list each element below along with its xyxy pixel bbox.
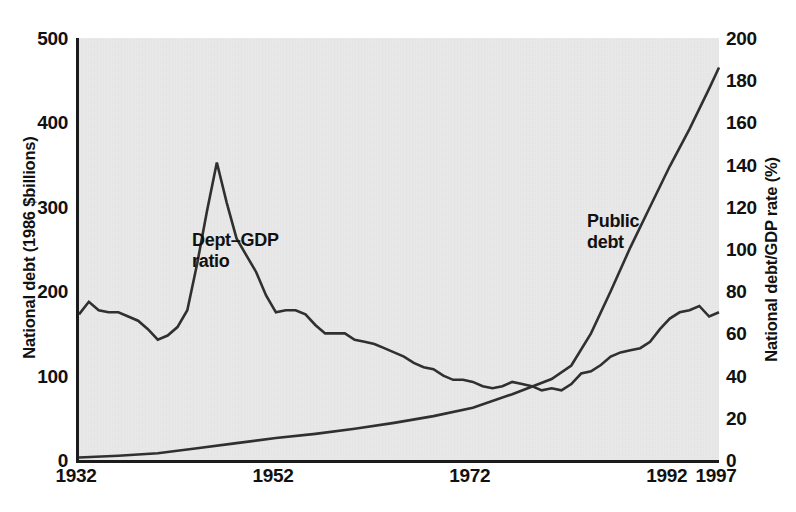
x-tick-1932: 1932	[55, 466, 96, 485]
x-tick-1952: 1952	[252, 466, 293, 485]
y-tick-right-120: 120	[726, 197, 757, 216]
series-line-dept-gdp-ratio	[79, 162, 719, 390]
y-tick-left-500: 500	[37, 29, 68, 48]
y-tick-right-180: 180	[726, 71, 757, 90]
y-tick-right-160: 160	[726, 113, 757, 132]
y-tick-left-200: 200	[37, 282, 68, 301]
y-tick-right-40: 40	[726, 366, 747, 385]
annotation-public-debt: Public debt	[587, 211, 639, 253]
chart-figure: National debt (1986 $billions) National …	[0, 0, 796, 512]
y-tick-right-200: 200	[726, 29, 757, 48]
y-tick-left-300: 300	[37, 197, 68, 216]
y-tick-right-80: 80	[726, 282, 747, 301]
plot-area: Dept–GDP ratio Public debt	[76, 38, 719, 463]
y-tick-right-140: 140	[726, 155, 757, 174]
series-line-public-debt	[79, 68, 719, 458]
x-tick-1972: 1972	[449, 466, 490, 485]
y-tick-left-400: 400	[37, 113, 68, 132]
annotation-dept-gdp-ratio: Dept–GDP ratio	[192, 230, 279, 272]
y-axis-left-ticks: 0100200300400500	[0, 38, 68, 460]
x-tick-1992: 1992	[646, 466, 687, 485]
y-tick-right-20: 20	[726, 408, 747, 427]
y-axis-right-ticks: 020406080100120140160180200	[726, 38, 792, 460]
y-tick-right-60: 60	[726, 324, 747, 343]
x-tick-1997: 1997	[695, 466, 736, 485]
y-tick-right-100: 100	[726, 240, 757, 259]
y-tick-left-100: 100	[37, 366, 68, 385]
